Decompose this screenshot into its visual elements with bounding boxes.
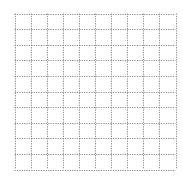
dotted-grid bbox=[0, 0, 183, 177]
